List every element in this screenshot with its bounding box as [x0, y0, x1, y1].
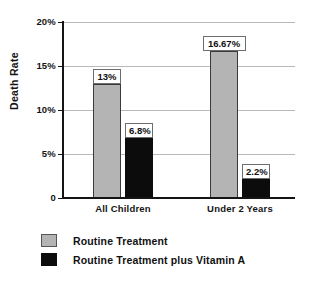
legend-item: Routine Treatment plus Vitamin A — [41, 250, 245, 269]
bar — [210, 51, 238, 198]
bar-value-label: 2.2% — [242, 164, 270, 179]
bar — [242, 179, 270, 198]
legend-item: Routine Treatment — [41, 231, 245, 250]
y-tick-label-wrap: 0 — [8, 192, 56, 204]
x-axis-line — [63, 197, 295, 199]
bar-value-label: 13% — [93, 69, 121, 84]
bar — [125, 138, 153, 198]
plot-area: 13%6.8%16.67%2.2% — [63, 22, 295, 198]
legend-label: Routine Treatment plus Vitamin A — [73, 254, 245, 266]
x-axis-category-label: Under 2 Years — [190, 203, 290, 214]
x-axis-category-label: All Children — [73, 203, 173, 214]
legend: Routine TreatmentRoutine Treatment plus … — [41, 231, 245, 269]
bar — [93, 84, 121, 198]
y-tick-label: 15% — [14, 60, 56, 71]
bar-chart: Death Rate 20%15%10%5%0 13%6.8%16.67%2.2… — [0, 0, 309, 281]
y-tick-label: 20% — [14, 16, 56, 27]
legend-swatch — [41, 253, 57, 266]
y-tick-label-wrap: 5% — [8, 148, 56, 160]
bar-series-container: 13%6.8%16.67%2.2% — [63, 22, 295, 198]
legend-label: Routine Treatment — [73, 235, 168, 247]
legend-swatch — [41, 234, 57, 247]
bar-value-label: 6.8% — [125, 123, 153, 138]
y-tick-label-wrap: 15% — [8, 60, 56, 72]
y-tick-label-wrap: 20% — [8, 16, 56, 28]
y-tick-label-wrap: 10% — [8, 104, 56, 116]
y-axis-line — [62, 21, 64, 199]
bar-value-label: 16.67% — [203, 36, 246, 51]
y-tick-label: 10% — [14, 104, 56, 115]
y-tick-label: 0 — [14, 192, 56, 203]
y-tick-label: 5% — [14, 148, 56, 159]
